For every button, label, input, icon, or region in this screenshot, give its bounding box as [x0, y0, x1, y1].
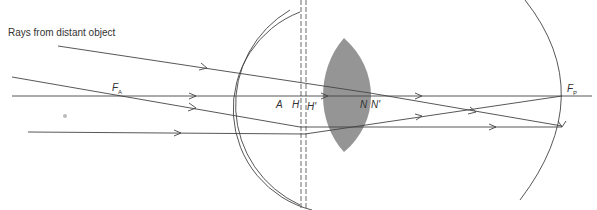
cornea-inner: [233, 12, 312, 210]
arrowhead: [199, 63, 207, 70]
label-F-A: FA: [112, 82, 122, 95]
retina-arc: [520, 0, 561, 200]
label-F-P: FP: [567, 83, 577, 96]
label-A: A: [275, 99, 283, 110]
label-N: N: [360, 99, 368, 110]
label-H: H: [292, 99, 300, 110]
ray-through-anterior-focus: [12, 77, 562, 127]
image-point-arrow: [558, 121, 566, 127]
caption: Rays from distant object: [8, 27, 115, 38]
stray-dot: [63, 114, 67, 118]
label-N-prime: N': [371, 99, 381, 110]
arrowhead: [188, 103, 196, 111]
eye-optics-diagram: Rays from distant object FA A H H' N N' …: [0, 0, 597, 210]
ray-upper-oblique: [58, 46, 562, 126]
cornea-outer: [236, 10, 300, 205]
crystalline-lens: [323, 38, 371, 152]
label-H-prime: H': [307, 101, 317, 112]
